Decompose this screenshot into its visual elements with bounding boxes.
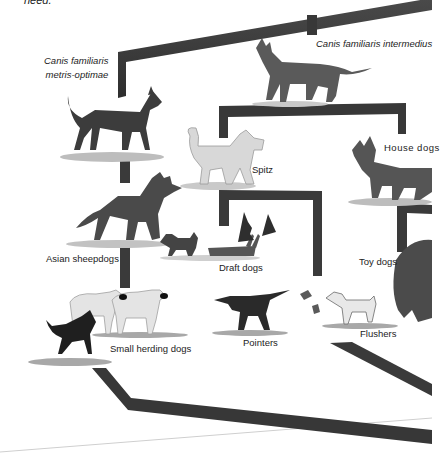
dog-draft-dog-illustration — [160, 232, 198, 256]
dog-metris-optimae-illustration — [68, 86, 162, 150]
label-metris-optimae: Canis familiaris metris-optimae — [44, 54, 108, 82]
label-house-dogs: House dogs — [384, 142, 440, 154]
label-spitz: Spitz — [252, 164, 273, 176]
dog-small-herding-dog-illustration — [46, 310, 96, 354]
label-draft-dogs: Draft dogs — [219, 262, 263, 274]
label-flushers: Flushers — [360, 328, 396, 340]
label-small-herding-dogs: Small herding dogs — [110, 343, 191, 355]
birds-illustration — [300, 290, 320, 314]
label-asian-sheepdogs: Asian sheepdogs — [46, 253, 119, 265]
label-pointers: Pointers — [243, 337, 278, 349]
label-metris-optimae-line2: metris-optimae — [44, 68, 108, 82]
dog-toy-dog-illustration — [393, 240, 432, 322]
dog-flusher-illustration — [326, 292, 376, 324]
dog-pointer-illustration — [214, 290, 290, 330]
label-metris-optimae-line1: Canis familiaris — [44, 54, 108, 68]
label-intermedius: Canis familiaris intermedius — [316, 38, 432, 50]
label-toy-dogs: Toy dogs — [359, 256, 397, 268]
